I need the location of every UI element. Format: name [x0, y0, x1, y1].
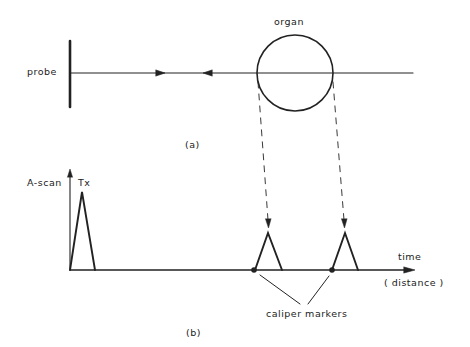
projection-line-right — [333, 82, 344, 220]
ultrasound-a-scan-diagram: probe organ (a) A-scan Tx time ( distanc… — [0, 0, 470, 347]
echo-pulse-1 — [255, 233, 282, 270]
tx-label: Tx — [78, 177, 90, 188]
caliper-pointer-1 — [260, 275, 300, 304]
distance-axis-sublabel: ( distance ) — [384, 277, 444, 288]
caliper-markers-label: caliper markers — [266, 308, 347, 319]
a-scan-axis-label: A-scan — [27, 177, 62, 188]
caliper-marker-1 — [251, 267, 257, 273]
caption-b: (b) — [186, 327, 201, 338]
echo-pulse-2 — [332, 233, 358, 270]
time-axis-label: time — [398, 251, 421, 262]
caliper-pointer-2 — [308, 276, 329, 304]
probe-label: probe — [27, 66, 57, 77]
caption-a: (a) — [185, 139, 200, 150]
projection-arrow-left-icon — [266, 219, 272, 228]
arrow-right-icon — [156, 70, 165, 76]
projection-arrow-right-icon — [342, 219, 348, 228]
projection-line-left — [258, 82, 268, 220]
time-axis-arrow-icon — [404, 267, 415, 273]
y-axis-arrow-icon — [68, 169, 73, 177]
arrow-left-icon — [203, 70, 212, 76]
organ-label: organ — [274, 16, 304, 27]
diagram-canvas — [0, 0, 470, 347]
tx-pulse — [70, 192, 95, 270]
caliper-marker-2 — [329, 267, 335, 273]
